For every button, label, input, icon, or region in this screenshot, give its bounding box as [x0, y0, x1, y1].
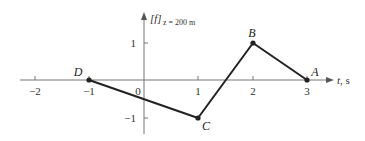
- point-label-A: A: [310, 65, 319, 79]
- x-tick-label: −2: [29, 85, 41, 97]
- y-tick-label: 1: [131, 37, 137, 49]
- point-label-D: D: [73, 65, 83, 79]
- y-tick-label: −1: [124, 112, 136, 124]
- point-label-B: B: [248, 26, 256, 40]
- x-tick-label: −1: [83, 85, 95, 97]
- x-axis-label: t, s: [337, 74, 350, 86]
- data-point-D: [86, 77, 91, 82]
- y-axis-arrow-icon: [141, 12, 147, 20]
- data-point-B: [250, 40, 255, 45]
- x-tick-label: 2: [250, 85, 256, 97]
- x-tick-label: 1: [195, 85, 201, 97]
- x-axis-arrow-icon: [326, 77, 334, 83]
- x-tick-label: 3: [304, 85, 310, 97]
- x-tick-label: 0: [135, 85, 141, 97]
- data-point-A: [304, 77, 309, 82]
- data-point-C: [195, 115, 200, 120]
- y-axis-label-subscript: z = 200 m: [163, 18, 196, 27]
- waveform-chart: −2 −1 0 1 2 3 1 −1 D C B A [f] z = 200 m…: [0, 0, 365, 141]
- point-label-C: C: [202, 119, 211, 133]
- y-axis-label: [f]: [150, 12, 162, 24]
